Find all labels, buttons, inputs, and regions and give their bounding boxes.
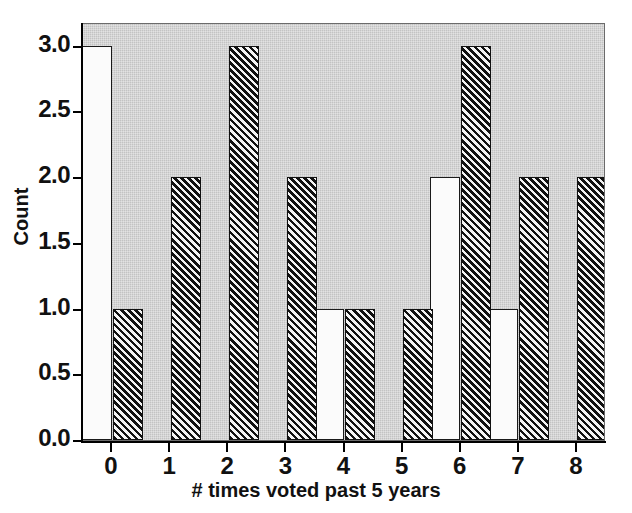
- x-tick-label-6: 6: [440, 452, 480, 480]
- x-tick-label-1: 1: [149, 452, 189, 480]
- bar-hatched-4: [345, 309, 375, 440]
- x-tick-7: [517, 443, 519, 452]
- x-tick-6: [459, 443, 461, 452]
- bar-open-0: [82, 46, 112, 440]
- y-tick-label-1.0: 1.0: [10, 293, 70, 321]
- x-tick-5: [401, 443, 403, 452]
- x-tick-0: [110, 443, 112, 452]
- y-tick-label-2.5: 2.5: [10, 95, 70, 123]
- y-tick-3.0: [73, 46, 82, 48]
- x-tick-8: [575, 443, 577, 452]
- bar-open-7: [488, 309, 518, 440]
- x-tick-4: [343, 443, 345, 452]
- bar-open-4: [314, 309, 344, 440]
- y-tick-label-0.0: 0.0: [10, 424, 70, 452]
- x-tick-label-3: 3: [265, 452, 305, 480]
- x-tick-1: [168, 443, 170, 452]
- y-axis-line: [81, 23, 83, 442]
- bar-hatched-1: [171, 177, 201, 440]
- bar-open-6: [430, 177, 460, 440]
- plot-area: [82, 23, 605, 441]
- y-tick-0.0: [73, 440, 82, 442]
- x-tick-label-0: 0: [91, 452, 131, 480]
- x-tick-3: [284, 443, 286, 452]
- y-tick-0.5: [73, 374, 82, 376]
- bar-hatched-0: [113, 309, 143, 440]
- x-tick-label-2: 2: [207, 452, 247, 480]
- x-tick-label-5: 5: [382, 452, 422, 480]
- y-tick-2.5: [73, 111, 82, 113]
- bar-hatched-2: [229, 46, 259, 440]
- bars-container: [83, 24, 604, 440]
- x-tick-label-7: 7: [498, 452, 538, 480]
- x-tick-label-4: 4: [324, 452, 364, 480]
- x-tick-2: [226, 443, 228, 452]
- bar-hatched-8: [577, 177, 605, 440]
- bar-hatched-6: [461, 46, 491, 440]
- y-tick-1.0: [73, 309, 82, 311]
- y-axis-title: Count: [10, 162, 33, 272]
- y-tick-2.0: [73, 177, 82, 179]
- bar-hatched-5: [403, 309, 433, 440]
- y-tick-1.5: [73, 243, 82, 245]
- x-axis-title: # times voted past 5 years: [0, 479, 632, 502]
- bar-hatched-7: [519, 177, 549, 440]
- x-tick-label-8: 8: [556, 452, 596, 480]
- y-tick-label-3.0: 3.0: [10, 30, 70, 58]
- bar-hatched-3: [287, 177, 317, 440]
- bar-chart-figure: 0.00.51.01.52.02.53.0 012345678 Count # …: [0, 0, 632, 513]
- y-tick-label-0.5: 0.5: [10, 358, 70, 386]
